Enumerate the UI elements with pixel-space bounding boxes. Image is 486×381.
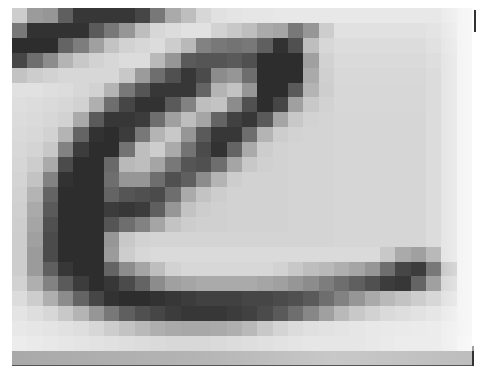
pixel-cell xyxy=(395,247,410,262)
pixel-cell xyxy=(43,172,58,187)
pixel-cell xyxy=(43,157,58,172)
pixel-cell xyxy=(135,53,150,68)
pixel-cell xyxy=(349,321,364,336)
pixel-cell xyxy=(334,202,349,217)
pixel-cell xyxy=(365,83,380,98)
pixel-cell xyxy=(135,291,150,306)
pixel-cell xyxy=(211,83,226,98)
pixel-cell xyxy=(380,276,395,291)
pixel-cell xyxy=(273,68,288,83)
pixel-cell xyxy=(135,8,150,23)
pixel-cell xyxy=(89,321,104,336)
pixel-cell xyxy=(73,336,88,351)
pixel-cell xyxy=(165,38,180,53)
pixel-cell xyxy=(227,38,242,53)
pixel-cell xyxy=(365,127,380,142)
pixel-cell xyxy=(303,157,318,172)
pixel-cell xyxy=(273,127,288,142)
pixel-cell xyxy=(196,262,211,277)
pixel-cell xyxy=(165,247,180,262)
pixel-cell xyxy=(395,127,410,142)
pixel-cell xyxy=(12,8,27,23)
pixel-cell xyxy=(349,112,364,127)
pixel-cell xyxy=(104,23,119,38)
pixel-cell xyxy=(165,68,180,83)
pixel-cell xyxy=(165,217,180,232)
pixel-cell xyxy=(227,8,242,23)
pixel-cell xyxy=(303,321,318,336)
pixel-cell xyxy=(211,321,226,336)
pixel-cell xyxy=(273,112,288,127)
pixel-cell xyxy=(242,23,257,38)
pixel-cell xyxy=(365,23,380,38)
pixel-cell xyxy=(426,306,441,321)
pixel-cell xyxy=(273,306,288,321)
pixel-cell xyxy=(27,217,42,232)
pixel-cell xyxy=(58,247,73,262)
pixel-cell xyxy=(150,262,165,277)
pixel-cell xyxy=(12,83,27,98)
pixel-cell xyxy=(426,202,441,217)
pixel-cell xyxy=(288,336,303,351)
pixel-cell xyxy=(58,217,73,232)
pixel-cell xyxy=(196,276,211,291)
pixel-cell xyxy=(303,276,318,291)
pixel-cell xyxy=(426,112,441,127)
pixel-cell xyxy=(395,83,410,98)
pixel-cell xyxy=(426,83,441,98)
pixel-cell xyxy=(395,8,410,23)
pixel-cell xyxy=(288,276,303,291)
pixel-cell xyxy=(181,187,196,202)
pixel-cell xyxy=(150,112,165,127)
pixel-cell xyxy=(150,53,165,68)
pixel-cell xyxy=(104,38,119,53)
pixel-cell xyxy=(196,187,211,202)
pixel-cell xyxy=(89,38,104,53)
pixel-cell xyxy=(365,306,380,321)
pixel-cell xyxy=(196,291,211,306)
pixel-cell xyxy=(395,142,410,157)
pixel-cell xyxy=(165,157,180,172)
pixel-cell xyxy=(150,321,165,336)
pixel-cell xyxy=(411,157,426,172)
pixel-cell xyxy=(211,53,226,68)
pixel-cell xyxy=(242,83,257,98)
pixel-cell xyxy=(242,112,257,127)
pixel-cell xyxy=(196,321,211,336)
pixel-cell xyxy=(457,83,472,98)
pixel-cell xyxy=(73,97,88,112)
pixel-cell xyxy=(211,217,226,232)
pixel-cell xyxy=(273,291,288,306)
pixel-cell xyxy=(73,157,88,172)
pixel-cell xyxy=(119,112,134,127)
pixel-cell xyxy=(242,217,257,232)
pixel-cell xyxy=(457,262,472,277)
pixel-cell xyxy=(319,262,334,277)
pixel-cell xyxy=(334,8,349,23)
digit-figure xyxy=(12,8,472,366)
pixel-cell xyxy=(349,217,364,232)
pixel-cell xyxy=(104,202,119,217)
pixel-cell xyxy=(27,53,42,68)
pixel-cell xyxy=(441,202,456,217)
pixel-cell xyxy=(181,276,196,291)
pixel-cell xyxy=(119,247,134,262)
pixel-cell xyxy=(395,53,410,68)
pixel-cell xyxy=(135,187,150,202)
pixel-cell xyxy=(242,202,257,217)
pixel-cell xyxy=(380,306,395,321)
pixel-cell xyxy=(426,127,441,142)
pixel-cell xyxy=(211,306,226,321)
pixel-cell xyxy=(196,53,211,68)
pixel-cell xyxy=(135,112,150,127)
pixel-cell xyxy=(89,291,104,306)
pixel-cell xyxy=(426,157,441,172)
pixel-cell xyxy=(441,142,456,157)
pixel-cell xyxy=(135,202,150,217)
pixel-cell xyxy=(349,127,364,142)
pixel-cell xyxy=(104,187,119,202)
pixel-cell xyxy=(457,142,472,157)
pixel-cell xyxy=(319,172,334,187)
pixel-cell xyxy=(12,217,27,232)
pixel-cell xyxy=(334,262,349,277)
